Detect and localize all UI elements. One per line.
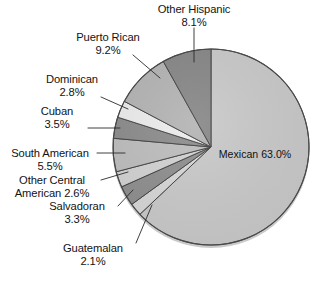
slice-label-salvadoran-name: Salvadoran — [36, 200, 118, 213]
slice-label-mexican-percent: 63.0% — [261, 148, 291, 160]
slice-label-puerto-rican-percent: 9.2% — [60, 44, 156, 57]
slice-label-other-hispanic-name: Other Hispanic — [138, 3, 250, 16]
slice-label-south-american: South American 5.5% — [2, 147, 98, 172]
slice-label-cuban-name: Cuban — [26, 105, 88, 118]
slice-label-south-american-percent: 5.5% — [2, 160, 98, 173]
slice-label-cuban: Cuban 3.5% — [26, 105, 88, 130]
slice-label-other-central-american-line2: American 2.6% — [2, 187, 102, 200]
slice-label-dominican: Dominican 2.8% — [28, 73, 116, 98]
slice-label-puerto-rican-name: Puerto Rican — [60, 31, 156, 44]
slice-label-cuban-percent: 3.5% — [26, 118, 88, 131]
slice-label-mexican: Mexican 63.0% — [218, 148, 292, 160]
slice-label-salvadoran: Salvadoran 3.3% — [36, 200, 118, 225]
pie-chart: Mexican 63.0%Guatemalan 2.1%Salvadoran 3… — [0, 0, 322, 284]
slice-label-salvadoran-percent: 3.3% — [36, 213, 118, 226]
slice-label-guatemalan-percent: 2.1% — [48, 255, 138, 268]
slice-label-other-central-american-line1: Other Central — [2, 174, 102, 187]
slice-label-dominican-percent: 2.8% — [28, 86, 116, 99]
slice-label-south-american-name: South American — [2, 147, 98, 160]
slice-label-mexican-name: Mexican — [219, 148, 258, 160]
slice-label-guatemalan-name: Guatemalan — [48, 242, 138, 255]
slice-label-other-central-american: Other Central American 2.6% — [2, 174, 102, 199]
slice-label-other-hispanic-percent: 8.1% — [138, 16, 250, 29]
slice-label-dominican-name: Dominican — [28, 73, 116, 86]
pie-slices-group: Mexican 63.0%Guatemalan 2.1%Salvadoran 3… — [113, 49, 309, 245]
slice-label-guatemalan: Guatemalan 2.1% — [48, 242, 138, 267]
slice-label-other-hispanic: Other Hispanic 8.1% — [138, 3, 250, 28]
slice-label-puerto-rican: Puerto Rican 9.2% — [60, 31, 156, 56]
